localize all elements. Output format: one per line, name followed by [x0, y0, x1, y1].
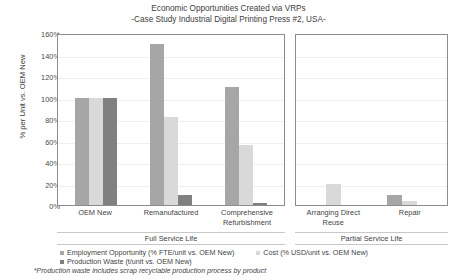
bar-groups-right: [296, 35, 447, 205]
category-label-repair: Repair: [372, 206, 449, 234]
bar-left-2-1[interactable]: [239, 145, 253, 205]
separator-bottom-left: [57, 244, 285, 245]
bar-left-1-0[interactable]: [150, 44, 164, 205]
legend-swatch-cost-icon: [256, 251, 260, 255]
legend-label-cost: Cost (% USD/unit vs. OEM New): [263, 248, 368, 257]
chart-container: Economic Opportunities Created via VRPs …: [0, 0, 457, 280]
bar-left-0-0[interactable]: [75, 98, 89, 206]
group-label-partial-service-life: Partial Service Life: [295, 234, 448, 243]
legend-item-production-waste[interactable]: Production Waste (t/unit vs. OEM New): [60, 257, 192, 266]
chart-title-block: Economic Opportunities Created via VRPs …: [0, 3, 457, 25]
legend-swatch-waste-icon: [60, 260, 64, 264]
bar-group-comprehensive-refurbishment: [209, 35, 284, 205]
legend-item-employment-opportunity[interactable]: Employment Opportunity (% FTE/unit vs. O…: [60, 248, 234, 257]
chart-footnote: *Production waste includes scrap recycla…: [0, 267, 300, 274]
legend-row-2: Production Waste (t/unit vs. OEM New): [60, 257, 420, 266]
chart-title: Economic Opportunities Created via VRPs: [0, 3, 457, 14]
category-label-arranging-direct-reuse: Arranging Direct Reuse: [295, 206, 372, 234]
bar-right-1-0[interactable]: [387, 195, 402, 205]
category-label-oem-new: OEM New: [57, 206, 133, 234]
legend-label-employment: Employment Opportunity (% FTE/unit vs. O…: [67, 248, 234, 257]
panel-full-service-life: [57, 34, 285, 206]
bar-group-arranging-direct-reuse: [296, 35, 372, 205]
bar-left-2-2[interactable]: [253, 203, 267, 205]
bar-group-remanufactured: [133, 35, 208, 205]
category-label-remanufactured: Remanufactured: [133, 206, 209, 234]
category-labels-right: Arranging Direct ReuseRepair: [295, 206, 448, 234]
category-label-comprehensive-refurbishment: Comprehensive Refurbishment: [209, 206, 285, 234]
bar-left-1-2[interactable]: [178, 195, 192, 205]
bar-left-0-1[interactable]: [89, 98, 103, 206]
category-labels-left: OEM NewRemanufacturedComprehensive Refur…: [57, 206, 285, 234]
bar-right-0-1[interactable]: [326, 184, 341, 206]
panel-partial-service-life: [295, 34, 448, 206]
legend-swatch-employment-icon: [60, 251, 64, 255]
chart-subtitle: -Case Study Industrial Digital Printing …: [0, 14, 457, 25]
group-label-full-service-life: Full Service Life: [57, 234, 285, 243]
legend-row-1: Employment Opportunity (% FTE/unit vs. O…: [60, 248, 420, 257]
legend-item-cost[interactable]: Cost (% USD/unit vs. OEM New): [256, 248, 368, 257]
chart-legend: Employment Opportunity (% FTE/unit vs. O…: [60, 248, 420, 266]
bar-group-oem-new: [58, 35, 133, 205]
separator-right: [295, 232, 448, 233]
bar-groups-left: [58, 35, 284, 205]
bar-group-repair: [372, 35, 448, 205]
bar-left-0-2[interactable]: [103, 98, 117, 206]
bar-left-1-1[interactable]: [164, 117, 178, 205]
legend-label-waste: Production Waste (t/unit vs. OEM New): [67, 257, 192, 266]
bar-right-1-1[interactable]: [402, 201, 417, 205]
separator-left: [57, 232, 285, 233]
bar-left-2-0[interactable]: [225, 87, 239, 205]
separator-bottom-right: [295, 244, 448, 245]
